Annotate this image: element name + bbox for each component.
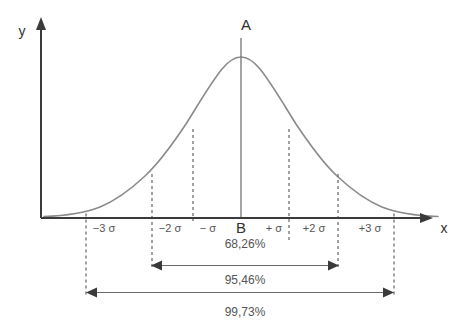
tick-label-minus-2-sigma: −2 σ — [159, 222, 182, 234]
tick-label-plus-1-sigma: + σ — [266, 222, 282, 234]
interval-arrowhead-95-left — [151, 261, 162, 271]
interval-arrowhead-95-right — [328, 261, 339, 271]
tick-label-plus-3-sigma: +3 σ — [359, 222, 382, 234]
center-label-b: B — [236, 219, 246, 236]
tick-label-minus-1-sigma: − σ — [200, 222, 216, 234]
interval-label-99: 99,73% — [225, 305, 266, 319]
interval-arrowhead-99-right — [383, 288, 394, 298]
distribution-chart-svg: y x A B −3 σ −2 σ − σ + σ +2 σ +3 σ 68,2… — [0, 0, 464, 333]
tick-label-plus-2-sigma: +2 σ — [303, 222, 326, 234]
peak-label-a: A — [241, 16, 251, 33]
tick-label-minus-3-sigma: −3 σ — [93, 222, 116, 234]
x-axis-label: x — [441, 220, 448, 236]
interval-arrowhead-99-left — [86, 288, 97, 298]
interval-label-68: 68,26% — [225, 237, 266, 251]
y-axis-arrowhead — [36, 17, 46, 30]
x-axis-arrowhead — [420, 213, 433, 223]
y-axis-label: y — [19, 23, 26, 39]
interval-label-95: 95,46% — [225, 273, 266, 287]
normal-distribution-figure: y x A B −3 σ −2 σ − σ + σ +2 σ +3 σ 68,2… — [0, 0, 464, 333]
